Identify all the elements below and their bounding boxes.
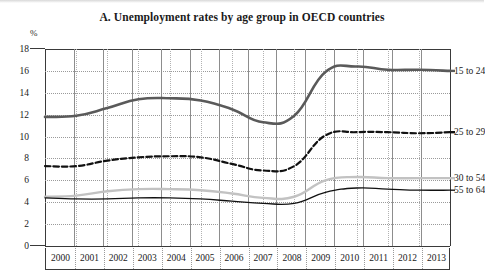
x-axis-tick-label: 2007 bbox=[249, 248, 278, 269]
series-line-15-to-24 bbox=[45, 65, 450, 123]
x-axis-separator bbox=[75, 248, 76, 269]
x-axis-separator bbox=[191, 248, 192, 269]
series-lines bbox=[45, 49, 450, 246]
y-axis-tick-label: 0 bbox=[0, 241, 29, 251]
x-axis-separator bbox=[277, 248, 278, 269]
x-axis-separator bbox=[422, 248, 423, 269]
axis-bottom-extension bbox=[30, 245, 45, 246]
x-axis-separator bbox=[393, 248, 394, 269]
plot-area bbox=[45, 49, 450, 246]
series-label-30-to-54: 30 to 54 bbox=[454, 173, 485, 183]
x-axis-tick-label: 2001 bbox=[75, 248, 104, 269]
y-axis-tick-label: 8 bbox=[0, 153, 29, 163]
chart-title: A. Unemployment rates by age group in OE… bbox=[0, 11, 484, 23]
x-axis-tick-label: 2010 bbox=[335, 248, 364, 269]
x-axis-separator bbox=[249, 248, 250, 269]
axis-top-extension bbox=[30, 48, 45, 49]
x-axis-tick-label: 2004 bbox=[162, 248, 191, 269]
y-axis-tick-label: 6 bbox=[0, 175, 29, 185]
y-axis-tick-label: 16 bbox=[0, 66, 29, 76]
series-label-55-to-64: 55 to 64 bbox=[454, 185, 485, 195]
plot-frame-right bbox=[450, 49, 451, 246]
x-axis-tick-label: 2012 bbox=[393, 248, 422, 269]
x-axis: 2000200120022003200420052006200720082009… bbox=[45, 248, 450, 270]
x-axis-tick-label: 2009 bbox=[306, 248, 335, 269]
y-axis-unit-label: % bbox=[30, 28, 38, 38]
x-axis-separator bbox=[364, 248, 365, 269]
y-axis-tick-label: 4 bbox=[0, 197, 29, 207]
plot-frame-bottom bbox=[45, 246, 450, 247]
x-axis-separator bbox=[220, 248, 221, 269]
x-axis-separator bbox=[133, 248, 134, 269]
x-axis-separator bbox=[162, 248, 163, 269]
x-axis-tick-label: 2003 bbox=[133, 248, 162, 269]
x-axis-separator bbox=[335, 248, 336, 269]
x-axis-tick-label: 2005 bbox=[191, 248, 220, 269]
y-axis-tick-label: 12 bbox=[0, 110, 29, 120]
x-axis-separator bbox=[306, 248, 307, 269]
y-axis-tick-label: 2 bbox=[0, 219, 29, 229]
x-axis-tick-label: 2000 bbox=[46, 248, 75, 269]
scan-edge bbox=[0, 0, 484, 3]
y-axis-tick-label: 18 bbox=[0, 44, 29, 54]
series-line-25-to-29 bbox=[45, 131, 450, 171]
series-line-30-to-54 bbox=[45, 177, 450, 199]
series-label-15-to-24: 15 to 24 bbox=[454, 66, 485, 76]
x-axis-tick-label: 2008 bbox=[277, 248, 306, 269]
x-axis-separator bbox=[104, 248, 105, 269]
x-axis-tick-label: 2006 bbox=[220, 248, 249, 269]
y-axis-tick-label: 14 bbox=[0, 88, 29, 98]
x-axis-tick-label: 2002 bbox=[104, 248, 133, 269]
x-axis-tick-label: 2013 bbox=[422, 248, 451, 269]
x-axis-tick-label: 2011 bbox=[364, 248, 393, 269]
series-label-25-to-29: 25 to 29 bbox=[454, 127, 485, 137]
y-axis-tick-label: 10 bbox=[0, 132, 29, 142]
